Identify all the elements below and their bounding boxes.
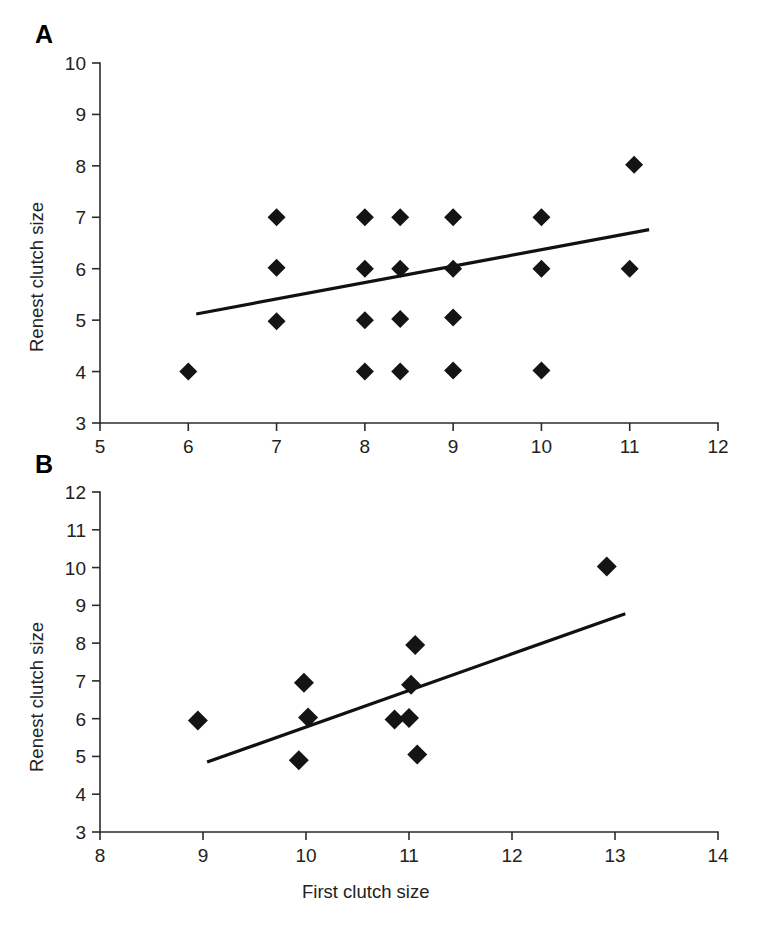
y-axis-tick-label: 12 xyxy=(60,483,86,502)
x-axis-tick-label: 14 xyxy=(707,846,728,865)
y-axis-tick-label: 9 xyxy=(60,105,86,124)
data-point-marker xyxy=(444,260,462,278)
x-axis-tick-label: 13 xyxy=(604,846,625,865)
panel-b: B Renest clutch size 8910111213143456789… xyxy=(0,440,770,926)
y-axis-tick-label: 5 xyxy=(60,311,86,330)
data-point-marker xyxy=(289,750,309,770)
y-axis-tick-label: 3 xyxy=(60,823,86,842)
data-point-marker xyxy=(532,260,550,278)
y-axis-tick-label: 5 xyxy=(60,747,86,766)
y-axis-tick-label: 8 xyxy=(60,156,86,175)
data-point-marker xyxy=(391,363,409,381)
y-axis-tick-label: 3 xyxy=(60,414,86,433)
data-point-marker xyxy=(188,711,208,731)
y-axis-tick-label: 11 xyxy=(60,520,86,539)
y-axis-tick-label: 9 xyxy=(60,596,86,615)
y-axis-tick-label: 4 xyxy=(60,362,86,381)
regression-line xyxy=(196,230,649,314)
data-point-marker xyxy=(532,208,550,226)
data-point-marker xyxy=(356,311,374,329)
data-point-marker xyxy=(294,673,314,693)
data-point-marker xyxy=(356,208,374,226)
data-point-marker xyxy=(268,208,286,226)
x-axis-tick-label: 12 xyxy=(501,846,522,865)
data-point-marker xyxy=(621,260,639,278)
data-point-marker xyxy=(391,310,409,328)
data-point-marker xyxy=(597,556,617,576)
data-point-marker xyxy=(391,208,409,226)
data-point-marker xyxy=(268,312,286,330)
data-point-marker xyxy=(444,362,462,380)
y-axis-tick-label: 8 xyxy=(60,634,86,653)
data-point-marker xyxy=(179,363,197,381)
data-point-marker xyxy=(356,260,374,278)
data-point-marker xyxy=(532,362,550,380)
data-point-marker xyxy=(444,309,462,327)
x-axis-tick-label: 10 xyxy=(295,846,316,865)
x-axis-tick-label: 11 xyxy=(399,846,419,865)
y-axis-tick-label: 10 xyxy=(60,558,86,577)
data-point-marker xyxy=(444,208,462,226)
x-axis-tick-label: 9 xyxy=(198,846,209,865)
panel-a-plot-area xyxy=(0,0,770,465)
shared-x-axis-title: First clutch size xyxy=(302,883,429,902)
panel-a: A Renest clutch size 5678910111234567891… xyxy=(0,0,770,465)
data-point-marker xyxy=(625,156,643,174)
y-axis-tick-label: 7 xyxy=(60,671,86,690)
panel-b-plot-area xyxy=(0,440,770,926)
x-axis-tick-label: 8 xyxy=(95,846,106,865)
data-point-marker xyxy=(399,708,419,728)
y-axis-tick-label: 7 xyxy=(60,208,86,227)
data-point-marker xyxy=(405,635,425,655)
y-axis-tick-label: 6 xyxy=(60,709,86,728)
y-axis-tick-label: 10 xyxy=(60,54,86,73)
y-axis-tick-label: 4 xyxy=(60,785,86,804)
figure-container: A Renest clutch size 5678910111234567891… xyxy=(0,0,770,926)
y-axis-tick-label: 6 xyxy=(60,259,86,278)
data-point-marker xyxy=(407,745,427,765)
data-point-marker xyxy=(356,363,374,381)
data-point-marker xyxy=(268,259,286,277)
